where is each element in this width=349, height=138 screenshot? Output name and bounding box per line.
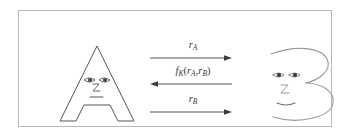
flow-fk-label: fK(rA,rB) xyxy=(147,65,239,80)
flow-ra-arrow xyxy=(150,54,232,62)
letter-a-icon xyxy=(57,43,137,125)
flow-rb: rB xyxy=(147,93,239,117)
right-pupil xyxy=(103,78,107,82)
arrowhead-right-icon xyxy=(224,55,232,61)
arrowhead-left-icon xyxy=(150,81,158,87)
arrowhead-right-icon xyxy=(224,109,232,115)
flow-ra-label: rA xyxy=(147,39,239,54)
flow-ra-label-sub: A xyxy=(193,43,198,52)
left-pupil xyxy=(88,78,92,82)
letter-b-icon xyxy=(265,41,347,127)
mouth xyxy=(277,103,295,105)
flow-rb-arrow xyxy=(150,108,232,116)
party-a-figure xyxy=(57,43,137,125)
flow-fk: fK(rA,rB) xyxy=(147,65,239,89)
party-b-figure xyxy=(265,41,347,127)
left-pupil xyxy=(277,73,281,77)
flow-fk-arrow xyxy=(150,80,232,88)
flow-rb-label: rB xyxy=(147,93,239,108)
flow-fk-label-close: ) xyxy=(207,65,211,76)
figure-frame: rA fK(rA,rB) rB xyxy=(18,10,332,127)
nose xyxy=(281,85,289,93)
flow-ra: rA xyxy=(147,39,239,63)
right-pupil xyxy=(293,73,297,77)
figure-root: rA fK(rA,rB) rB xyxy=(0,0,349,138)
flow-rb-label-sub: B xyxy=(193,97,198,106)
message-flows: rA fK(rA,rB) rB xyxy=(147,39,239,119)
